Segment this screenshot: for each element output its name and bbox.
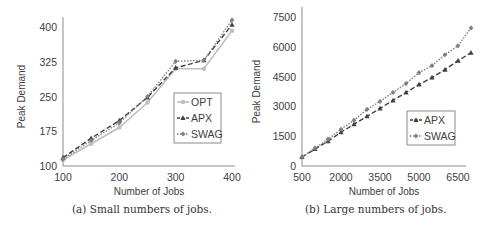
x-tick-label: 500 — [293, 171, 311, 183]
marker-diamond — [430, 63, 435, 68]
x-tick-label: 2000 — [329, 171, 353, 183]
y-tick-label: 4500 — [273, 71, 297, 83]
x-tick-label: 400 — [223, 171, 241, 183]
x-tick-label: 5000 — [407, 171, 431, 183]
legend: OPTAPXSWAG — [174, 93, 223, 143]
marker-triangle — [468, 50, 473, 55]
x-tick-label: 6500 — [446, 171, 470, 183]
y-tick-label: 6000 — [273, 41, 297, 53]
x-tick-label: 200 — [111, 171, 129, 183]
y-tick-label: 1500 — [273, 130, 297, 142]
legend-label: SWAG — [191, 128, 223, 140]
x-tick-label: 3500 — [368, 171, 392, 183]
caption-a: (a) Small numbers of jobs. — [72, 203, 212, 215]
caption-b: (b) Large numbers of jobs. — [305, 203, 447, 215]
marker-circle — [117, 125, 122, 130]
x-axis-label: Number of Jobs — [349, 186, 420, 197]
marker-diamond — [443, 52, 448, 57]
marker-triangle — [455, 58, 460, 63]
y-tick-label: 400 — [39, 21, 57, 33]
y-tick-label: 7500 — [273, 11, 297, 23]
chart-a: 100175250325400100200300400Number of Job… — [16, 17, 241, 197]
y-tick-label: 3000 — [273, 100, 297, 112]
y-tick-label: 175 — [39, 125, 57, 137]
marker-triangle — [442, 67, 447, 72]
x-tick-label: 100 — [54, 171, 72, 183]
legend-label: APX — [191, 112, 212, 124]
chart-b: 0150030004500600075005002000350050006500… — [251, 7, 474, 197]
legend-label: APX — [424, 114, 445, 126]
y-axis-label: Peak Demand — [251, 60, 262, 123]
y-tick-label: 325 — [39, 56, 57, 68]
x-tick-label: 300 — [167, 171, 185, 183]
figure-canvas: 100175250325400100200300400Number of Job… — [0, 0, 480, 231]
legend-label: SWAG — [424, 130, 456, 142]
marker-circle — [145, 100, 150, 105]
y-tick-label: 250 — [39, 91, 57, 103]
marker-circle — [181, 100, 186, 105]
marker-diamond — [469, 25, 474, 30]
marker-circle — [202, 66, 207, 71]
legend-label: OPT — [191, 96, 213, 108]
marker-circle — [230, 28, 235, 33]
y-axis-label: Peak Demand — [16, 65, 27, 128]
legend: APXSWAG — [407, 111, 456, 145]
x-axis-label: Number of Jobs — [114, 186, 185, 197]
